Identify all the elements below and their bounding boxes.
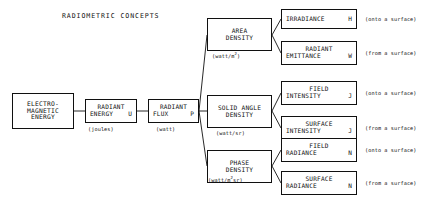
node-area-density: AREA DENSITY (207, 18, 272, 51)
node-surface-radiance: SURFACE RADIANCE N (281, 171, 357, 195)
units-area-density: (watt/m2) (212, 53, 240, 59)
node-radiant-emittance: RADIANT EMITTANCE W (281, 41, 357, 65)
annotation-surface-intensity: (from a surface) (365, 125, 417, 131)
node-solid-angle-density: SOLID ANGLE DENSITY (207, 95, 272, 128)
node-symbol: P (184, 111, 194, 118)
node-radiant-energy: RADIANT ENERGY U (85, 99, 137, 123)
node-line: INTENSITY (286, 128, 321, 135)
connector-phasedensity-to-fieldradiance (272, 150, 281, 166)
node-field-radiance: FIELD RADIANCE N (281, 138, 357, 162)
connector-radflux-to-areadensity (199, 35, 207, 111)
units-radiant-energy: (joules) (88, 126, 114, 132)
node-line: DENSITY (226, 35, 253, 42)
node-symbol: J (342, 128, 352, 135)
units-phase-density: (watt/m2sr) (208, 177, 243, 183)
node-line: ENERGY (90, 111, 113, 118)
connector-areadensity-to-irradiance (272, 19, 281, 35)
node-line: DENSITY (226, 112, 253, 119)
units-text: (watt/m (208, 177, 231, 183)
connector-phasedensity-to-surfaceradiance (272, 166, 281, 183)
node-line: RADIANCE (286, 183, 317, 190)
node-symbol: H (342, 16, 352, 23)
units-tail: sr) (233, 177, 243, 183)
connector-radflux-to-phasedensity (199, 111, 207, 166)
connector-areadensity-to-emittance (272, 35, 281, 53)
node-field-intensity: FIELD INTENSITY J (281, 81, 357, 105)
annotation-irradiance: (onto a surface) (365, 16, 417, 22)
node-symbol: N (342, 150, 352, 157)
connector-solidangle-to-surfaceintensity (272, 111, 281, 128)
units-text: (watt/sr) (216, 130, 245, 136)
node-radiant-flux: RADIANT FLUX P (148, 99, 199, 123)
connector-solidangle-to-fieldintensity (272, 93, 281, 111)
annotation-field-radiance: (onto a surface) (365, 147, 417, 153)
node-line: DENSITY (226, 167, 253, 174)
units-text: (watt/m (212, 53, 235, 59)
node-line: FLUX (153, 111, 168, 118)
node-surface-intensity: SURFACE INTENSITY J (281, 116, 357, 140)
node-electromagnetic-energy: ELECTRO- MAGNETIC ENERGY (12, 93, 74, 129)
node-line: INTENSITY (286, 93, 321, 100)
node-symbol: U (122, 111, 132, 118)
node-line: IRRADIANCE (286, 16, 325, 23)
annotation-radiant-emittance: (from a surface) (365, 50, 417, 56)
units-solid-angle-density: (watt/sr) (216, 130, 245, 136)
node-symbol: W (342, 53, 352, 60)
radiometric-concepts-diagram: RADIOMETRIC CONCEPTS ELECTRO- MAGNETIC E… (0, 0, 432, 200)
node-symbol: N (342, 183, 352, 190)
units-radiant-flux: (watt) (156, 126, 175, 132)
node-symbol: J (342, 93, 352, 100)
node-line: EMITTANCE (286, 53, 321, 60)
node-line: ENERGY (31, 114, 55, 121)
annotation-field-intensity: (onto a surface) (365, 90, 417, 96)
node-line: RADIANCE (286, 150, 317, 157)
units-tail: ) (237, 53, 240, 59)
diagram-title: RADIOMETRIC CONCEPTS (62, 12, 159, 20)
annotation-surface-radiance: (from a surface) (365, 180, 417, 186)
node-irradiance: IRRADIANCE H (281, 9, 357, 29)
